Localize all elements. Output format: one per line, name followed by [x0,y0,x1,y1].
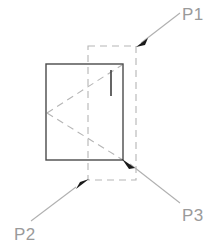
leader-line-p1 [141,13,180,43]
diagram-canvas: P1 P2 P3 [0,0,216,250]
diagonal-lower-dashed [47,113,123,160]
callout-label-p2: P2 [14,225,36,244]
callout-label-p3: P3 [182,206,204,225]
callout-label-p1: P1 [182,5,204,24]
technical-drawing-figure: P1 P2 P3 [0,0,216,250]
leader-line-p2 [31,187,76,221]
arrowhead-p3 [122,159,135,169]
arrowhead-p2 [76,179,89,189]
leader-line-p3 [130,164,180,203]
